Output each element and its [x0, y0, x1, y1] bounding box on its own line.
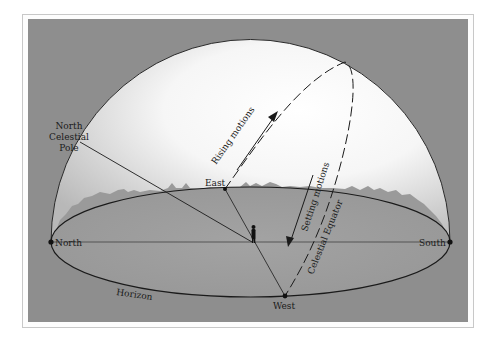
north-label: North [55, 238, 82, 248]
north-point [48, 239, 53, 244]
ncp-label-line3: Pole [59, 143, 78, 153]
ncp-label-line1: North [55, 121, 82, 131]
south-label: South [419, 238, 446, 248]
south-point [447, 239, 452, 244]
west-label: West [273, 301, 295, 311]
east-label: East [205, 178, 226, 188]
west-point [283, 294, 288, 299]
ncp-label-line2: Celestial [49, 132, 89, 142]
celestial-sphere-diagram: North Celestial Pole Rising motions Sett… [0, 0, 497, 345]
